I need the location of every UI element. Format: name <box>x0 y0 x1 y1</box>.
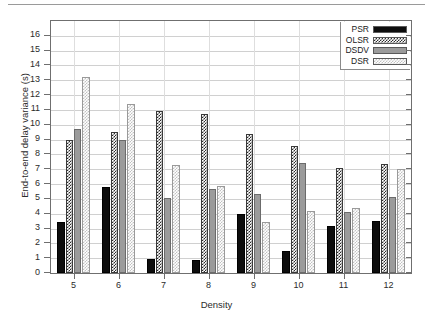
bar-dsdv-8 <box>209 189 217 273</box>
bar-dsr-10 <box>307 211 315 273</box>
bar-psr-10 <box>282 251 290 273</box>
y-tick <box>406 79 412 80</box>
y-tick <box>406 198 412 199</box>
bar-dsr-12 <box>397 169 405 273</box>
bar-olsr-12 <box>381 164 389 273</box>
bar-olsr-7 <box>156 111 164 273</box>
y-tick <box>44 257 50 258</box>
y-tick <box>406 242 412 243</box>
y-tick <box>44 272 50 273</box>
legend-swatch-psr <box>373 26 407 33</box>
y-tick <box>406 139 412 140</box>
y-tick <box>406 257 412 258</box>
y-axis-label: 0 <box>2 268 40 277</box>
bar-dsr-6 <box>127 104 135 273</box>
bar-dsdv-11 <box>344 212 352 273</box>
legend-swatch-dsdv <box>373 47 407 54</box>
legend-label-psr: PSR <box>352 25 369 34</box>
legend-item: DSR <box>345 56 407 66</box>
y-tick <box>406 64 412 65</box>
x-axis-title: Density <box>0 299 433 310</box>
y-tick <box>44 35 50 36</box>
x-axis-label: 9 <box>239 280 269 290</box>
x-axis-label: 10 <box>284 280 314 290</box>
y-axis-title: End-to-end delay variance (s) <box>19 16 30 256</box>
bar-olsr-9 <box>246 134 254 273</box>
y-tick <box>44 198 50 199</box>
plot-area: PSR OLSR DSDV DSR <box>50 20 412 274</box>
y-tick <box>406 94 412 95</box>
y-tick <box>406 124 412 125</box>
bar-dsr-11 <box>352 208 360 273</box>
x-axis-label: 5 <box>59 280 89 290</box>
y-tick <box>406 153 412 154</box>
bar-psr-11 <box>327 226 335 273</box>
y-tick <box>44 64 50 65</box>
gridline <box>51 125 411 126</box>
chart-legend: PSR OLSR DSDV DSR <box>340 22 410 70</box>
bar-psr-12 <box>372 221 380 273</box>
gridline <box>51 184 411 185</box>
legend-swatch-dsr <box>373 58 407 65</box>
bar-olsr-10 <box>291 146 299 273</box>
x-axis-label: 8 <box>194 280 224 290</box>
x-tick <box>164 274 165 279</box>
y-tick <box>44 50 50 51</box>
bar-psr-9 <box>237 214 245 273</box>
y-tick <box>406 183 412 184</box>
x-tick <box>254 274 255 279</box>
y-tick <box>406 35 412 36</box>
bar-olsr-6 <box>111 132 119 273</box>
bar-olsr-5 <box>66 140 74 273</box>
y-tick <box>406 213 412 214</box>
legend-item: PSR <box>345 25 407 35</box>
y-tick <box>44 124 50 125</box>
bar-dsr-9 <box>262 222 270 273</box>
gridline <box>51 80 411 81</box>
bar-dsdv-9 <box>254 194 262 273</box>
y-tick <box>44 139 50 140</box>
y-tick <box>44 228 50 229</box>
bar-dsdv-12 <box>389 197 397 273</box>
gridline <box>51 110 411 111</box>
x-axis-label: 7 <box>149 280 179 290</box>
y-tick <box>406 228 412 229</box>
bar-dsr-8 <box>217 186 225 273</box>
bar-olsr-11 <box>336 168 344 273</box>
x-tick <box>74 274 75 279</box>
y-tick <box>406 109 412 110</box>
x-tick <box>119 274 120 279</box>
legend-label-dsr: DSR <box>351 57 369 66</box>
bar-psr-7 <box>147 259 155 273</box>
bar-olsr-8 <box>201 114 209 273</box>
legend-swatch-olsr <box>373 37 407 44</box>
gridline <box>51 95 411 96</box>
bar-dsdv-7 <box>164 198 172 273</box>
x-axis-label: 11 <box>329 280 359 290</box>
bar-dsdv-5 <box>74 129 82 273</box>
x-tick <box>209 274 210 279</box>
gridline <box>51 169 411 170</box>
chart-figure: PSR OLSR DSDV DSR 0123456789101112131415… <box>0 0 433 322</box>
y-tick <box>406 50 412 51</box>
bar-psr-6 <box>102 187 110 273</box>
legend-label-dsdv: DSDV <box>345 46 369 55</box>
x-tick <box>389 274 390 279</box>
y-tick <box>44 183 50 184</box>
y-tick <box>44 94 50 95</box>
x-axis-label: 12 <box>374 280 404 290</box>
y-tick <box>44 213 50 214</box>
legend-item: DSDV <box>345 46 407 56</box>
y-tick <box>44 109 50 110</box>
legend-label-olsr: OLSR <box>346 36 369 45</box>
bar-dsdv-6 <box>119 140 127 273</box>
y-tick <box>44 79 50 80</box>
y-tick <box>44 242 50 243</box>
y-tick <box>406 272 412 273</box>
x-tick <box>299 274 300 279</box>
x-tick <box>344 274 345 279</box>
y-tick <box>406 168 412 169</box>
bar-psr-8 <box>192 260 200 273</box>
legend-item: OLSR <box>345 35 407 45</box>
bar-dsdv-10 <box>299 163 307 273</box>
